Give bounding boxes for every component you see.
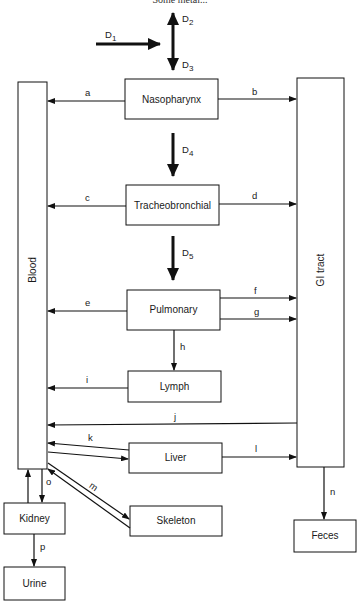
pathway-d: d: [219, 190, 296, 204]
deposition-d1-arrow: D1: [96, 29, 160, 44]
svg-text:p: p: [40, 541, 45, 552]
svg-text:g: g: [254, 306, 259, 317]
svg-text:b: b: [252, 86, 257, 97]
svg-text:D2: D2: [182, 13, 194, 27]
pathway-b: b: [218, 86, 296, 99]
nasopharynx-label: Nasopharynx: [142, 94, 201, 105]
deposition-d4-arrow: D4: [173, 133, 194, 176]
pathway-a: a: [48, 87, 125, 101]
liver-label: Liver: [165, 452, 187, 463]
svg-text:l: l: [255, 443, 257, 454]
pathway-j: j: [48, 411, 297, 425]
svg-text:n: n: [330, 486, 335, 497]
svg-text:c: c: [85, 192, 90, 203]
kidney-label: Kidney: [19, 513, 50, 524]
svg-text:j: j: [173, 411, 176, 422]
pathway-g: g: [220, 306, 296, 319]
compartment-pulmonary: Pulmonary: [127, 290, 220, 330]
pathway-i: i: [48, 374, 128, 388]
lymph-label: Lymph: [160, 381, 190, 392]
compartment-feces: Feces: [294, 520, 356, 552]
compartment-skeleton: Skeleton: [130, 506, 222, 536]
compartment-tracheobronchial: Tracheobronchial: [126, 185, 219, 225]
skeleton-label: Skeleton: [157, 515, 196, 526]
pathway-h: h: [174, 330, 185, 370]
compartment-gi-tract: GI tract: [297, 78, 344, 467]
svg-text:e: e: [85, 297, 90, 308]
svg-text:h: h: [180, 341, 185, 352]
pathway-l: l: [222, 443, 296, 457]
header-text: Some metal...: [153, 0, 208, 5]
deposition-d5-arrow: D5: [173, 236, 194, 280]
svg-text:D1: D1: [105, 29, 117, 43]
compartment-diagram: Some metal... D1 D2 D3 D4 D5 Blood GI tr…: [0, 0, 362, 608]
compartment-nasopharynx: Nasopharynx: [125, 79, 218, 119]
compartment-lymph: Lymph: [128, 371, 221, 402]
blood-label: Blood: [27, 257, 38, 283]
pathway-n: n: [324, 467, 335, 519]
compartment-blood: Blood: [18, 82, 47, 469]
svg-text:D3: D3: [182, 59, 194, 73]
svg-text:f: f: [254, 285, 257, 296]
urine-label: Urine: [23, 578, 47, 589]
tracheobronchial-label: Tracheobronchial: [134, 200, 211, 211]
pulmonary-label: Pulmonary: [150, 304, 198, 315]
compartment-urine: Urine: [4, 567, 65, 600]
feces-label: Feces: [311, 530, 338, 541]
svg-text:o: o: [46, 476, 51, 487]
pathway-o: o: [28, 469, 51, 503]
svg-text:a: a: [85, 87, 91, 98]
pathway-c: c: [48, 192, 126, 206]
pathway-k: k: [48, 432, 129, 459]
deposition-d2-d3-arrow: D2 D3: [173, 13, 194, 73]
pathway-f: f: [220, 285, 296, 298]
svg-text:D5: D5: [182, 247, 194, 261]
compartment-liver: Liver: [129, 443, 222, 473]
pathway-e: e: [48, 297, 127, 311]
svg-text:k: k: [88, 432, 93, 443]
compartment-kidney: Kidney: [4, 503, 65, 534]
svg-text:i: i: [86, 374, 88, 385]
pathway-p: p: [34, 534, 45, 566]
svg-text:d: d: [252, 190, 257, 201]
gi-tract-label: GI tract: [315, 253, 326, 286]
svg-text:D4: D4: [182, 144, 194, 158]
